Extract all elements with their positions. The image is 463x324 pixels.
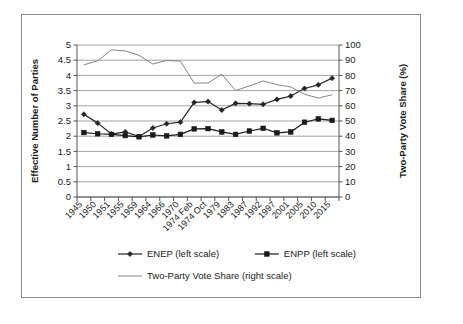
- data-point: [82, 130, 87, 135]
- left-axis-tick-label: 0: [66, 191, 71, 202]
- data-point: [219, 130, 224, 135]
- left-axis-tick-label: 4.5: [58, 54, 71, 65]
- legend-item[interactable]: ENEP (left scale): [118, 248, 219, 259]
- data-point: [206, 126, 211, 131]
- data-point: [137, 135, 142, 140]
- data-point: [178, 132, 183, 137]
- data-point: [164, 121, 169, 126]
- data-point: [302, 120, 307, 125]
- gridlines: [77, 45, 339, 197]
- legend-marker-diamond: [127, 251, 132, 256]
- data-point: [247, 129, 252, 134]
- left-axis-tick-label: 1: [66, 161, 71, 172]
- legend-label: ENPP (left scale): [284, 248, 356, 259]
- right-axis-tick-label: 30: [345, 146, 356, 157]
- data-point: [274, 97, 279, 102]
- data-point: [151, 133, 156, 138]
- left-axis: [74, 45, 78, 197]
- series-2: [82, 117, 335, 140]
- data-point: [123, 133, 128, 138]
- left-axis-tick-label: 2.5: [58, 115, 71, 126]
- left-axis-tick-label: 0.5: [58, 176, 71, 187]
- left-axis-tick-label: 2: [66, 130, 71, 141]
- data-point: [316, 82, 321, 87]
- chart-canvas: 00.511.522.533.544.55Effective Number of…: [22, 15, 422, 299]
- data-point: [95, 131, 100, 136]
- left-axis-tick-label: 3.5: [58, 85, 71, 96]
- data-point: [275, 131, 280, 136]
- data-point: [164, 134, 169, 139]
- right-axis-tick-label: 20: [345, 161, 356, 172]
- data-point: [330, 118, 335, 123]
- right-axis-tick-label: 0: [345, 191, 350, 202]
- legend-item[interactable]: ENPP (left scale): [255, 248, 356, 259]
- left-axis-tick-label: 1.5: [58, 146, 71, 157]
- data-point: [192, 127, 197, 132]
- left-axis-tick-label: 5: [66, 39, 71, 50]
- right-axis-tick-label: 80: [345, 70, 356, 81]
- legend-label: ENEP (left scale): [147, 248, 219, 259]
- left-axis-tick-label: 3: [66, 100, 71, 111]
- data-point: [261, 126, 266, 131]
- right-axis-tick-label: 50: [345, 115, 356, 126]
- right-axis-tick-label: 90: [345, 54, 356, 65]
- data-point: [330, 76, 335, 81]
- legend-marker-square: [265, 252, 270, 257]
- legend-item[interactable]: Two-Party Vote Share (right scale): [118, 270, 292, 281]
- right-axis: [339, 45, 343, 197]
- right-axis-tick-label: 70: [345, 85, 356, 96]
- right-axis-tick-label: 40: [345, 130, 356, 141]
- data-point: [288, 130, 293, 135]
- data-point: [316, 117, 321, 122]
- legend: ENEP (left scale)ENPP (left scale)Two-Pa…: [118, 248, 356, 281]
- data-point: [288, 93, 293, 98]
- data-point: [233, 132, 238, 137]
- right-axis-tick-label: 10: [345, 176, 356, 187]
- right-axis-tick-label: 60: [345, 100, 356, 111]
- right-axis-tick-label: 100: [345, 39, 361, 50]
- data-point: [109, 132, 114, 137]
- right-axis-title: Two-Party Vote Share (%): [397, 64, 408, 178]
- left-axis-tick-label: 4: [66, 70, 71, 81]
- legend-label: Two-Party Vote Share (right scale): [147, 270, 292, 281]
- left-axis-title: Effective Number of Parties: [29, 59, 40, 183]
- data-point: [233, 101, 238, 106]
- figure-frame: 00.511.522.533.544.55Effective Number of…: [21, 14, 421, 298]
